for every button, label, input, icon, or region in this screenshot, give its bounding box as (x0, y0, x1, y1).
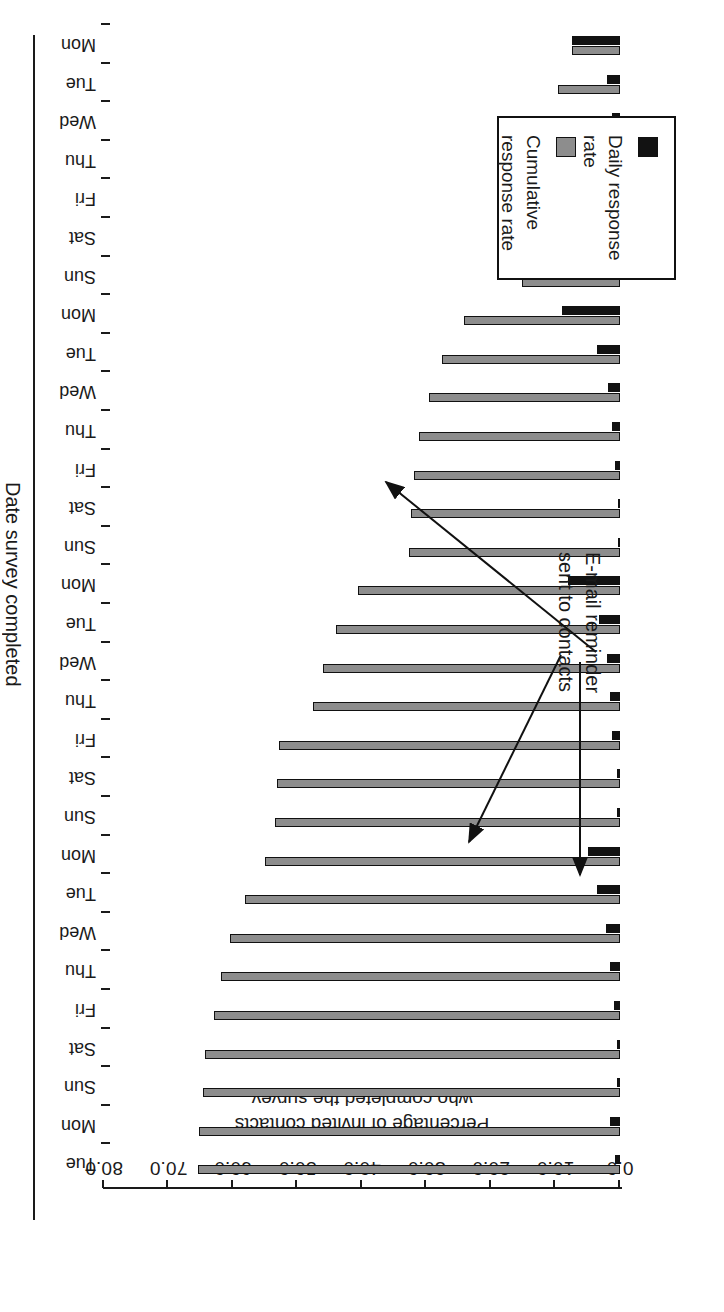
legend-label-daily: Daily response rate (578, 135, 628, 261)
legend-label-cumulative: Cumulative response rate (496, 135, 546, 251)
rotated-figure-canvas: 0.010.020.030.040.050.060.070.080.0 Perc… (0, 0, 724, 1312)
legend-swatch-cumulative (556, 137, 576, 157)
bar-chart: 0.010.020.030.040.050.060.070.080.0 Perc… (0, 0, 724, 1312)
figure-page: 0.010.020.030.040.050.060.070.080.0 Perc… (0, 0, 724, 1312)
legend-swatch-daily (638, 137, 658, 157)
chart-legend: Daily response rate Cumulative response … (497, 116, 676, 280)
annotation-label: E-mail reminder sent to contacts (552, 552, 606, 693)
